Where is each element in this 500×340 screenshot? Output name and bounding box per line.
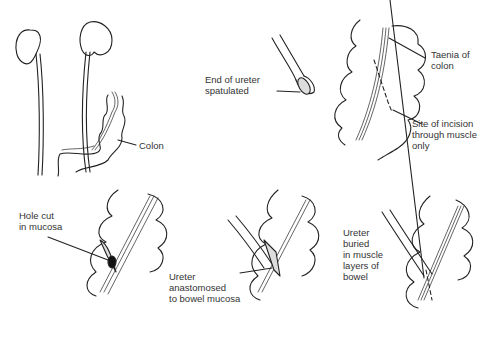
label-site-of-incision: Site of incision through muscle only	[412, 118, 477, 151]
label-colon: Colon	[139, 140, 164, 151]
label-ureter-buried: Ureter buried in muscle layers of bowel	[343, 227, 383, 282]
buried-panel	[382, 0, 473, 308]
ureter-end-panel	[272, 35, 314, 96]
label-end-of-ureter-spatulated: End of ureter spatulated	[205, 74, 260, 96]
label-hole-cut-in-mucosa: Hole cut in mucosa	[19, 210, 62, 232]
hole-mucosa-panel	[48, 190, 167, 296]
anastomosis-panel	[228, 190, 319, 300]
label-taenia-of-colon: Taenia of colon	[431, 49, 470, 71]
label-ureter-anastomosed: Ureter anastomosed to bowel mucosa	[169, 271, 240, 304]
ureterosigmoidostomy-illustration	[0, 0, 500, 340]
kidneys-colon-panel	[16, 22, 136, 176]
